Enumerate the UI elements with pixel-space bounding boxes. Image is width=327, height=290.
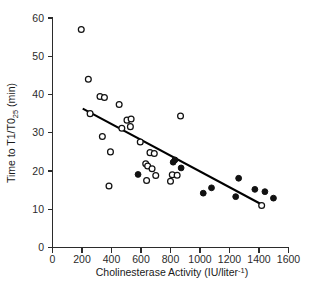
data-point [153,173,159,179]
data-point [128,116,134,122]
x-tick-label: 200 [73,253,91,265]
data-point [144,178,150,184]
y-axis-title-units: (min) [5,83,17,110]
svg-text:Cholinesterase Activity (IU/li: Cholinesterase Activity (IU/liter-1) [96,266,249,279]
y-axis-title-subscript: 25 [11,110,20,118]
data-point [137,139,143,145]
data-point [172,157,178,163]
x-tick-label: 1400 [247,253,271,265]
data-point [236,175,242,181]
y-tick-label: 0 [38,241,44,253]
regression-line-segment [83,109,263,205]
data-point [149,166,155,172]
y-tick-label: 20 [32,165,44,177]
x-tick-label: 1200 [218,253,242,265]
x-tick-label: 1600 [277,253,301,265]
x-tick-label: 800 [162,253,180,265]
data-point [78,27,84,33]
x-axis-title: Cholinesterase Activity (IU/liter-1) [96,266,249,279]
data-point [178,113,184,119]
svg-text:Time to T1/T025 (min): Time to T1/T025 (min) [5,83,20,183]
data-point [135,172,141,178]
data-point [178,165,184,171]
x-tick-label: 0 [50,253,56,265]
data-point [99,134,105,140]
scatter-plot-figure: 0102030405060 02004006008001000120014001… [0,0,327,290]
data-point [127,124,133,130]
x-tick-label: 400 [103,253,121,265]
regression-line [83,109,263,205]
x-tick-label: 1000 [188,253,212,265]
data-point [200,190,206,196]
data-point [271,195,277,201]
data-point [233,194,239,200]
x-axis-title-tail: ) [245,266,249,278]
data-point [262,189,268,195]
data-point [151,151,157,157]
y-axis-title-main: Time to T1/T0 [5,118,17,183]
x-axis-ticks: 02004006008001000120014001600 [50,248,301,266]
data-point [106,183,112,189]
data-point [108,149,114,155]
data-point [85,76,91,82]
y-axis-title: Time to T1/T025 (min) [5,83,20,183]
data-point [116,102,122,108]
x-axis-title-main: Cholinesterase Activity (IU/liter [96,266,239,278]
y-tick-label: 30 [32,126,44,138]
data-point [168,178,174,184]
x-axis-title-superscript: -1 [238,266,245,275]
data-point [119,125,125,131]
y-tick-label: 60 [32,12,44,24]
data-series-open-circles [78,27,264,209]
data-point [209,185,215,191]
y-tick-label: 10 [32,203,44,215]
data-point [252,186,258,192]
y-tick-label: 40 [32,88,44,100]
y-tick-label: 50 [32,50,44,62]
data-point [259,203,265,209]
y-axis-ticks: 0102030405060 [32,12,52,254]
data-point [102,95,108,101]
x-tick-label: 600 [132,253,150,265]
chart-canvas: 0102030405060 02004006008001000120014001… [0,0,327,290]
data-point [174,172,180,178]
data-point [87,111,93,117]
